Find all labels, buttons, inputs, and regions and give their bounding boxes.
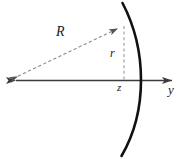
mirror-surface-arc [122, 3, 142, 156]
radius-vector-line [18, 28, 118, 76]
mirror-arc-path [122, 3, 142, 156]
figure-canvas [0, 0, 190, 159]
label-sagitta-z: z [117, 82, 121, 93]
mirror-geometry-figure: R r z y [0, 0, 190, 159]
label-axis-y: y [168, 83, 174, 96]
label-height-r: r [110, 47, 115, 59]
label-radius-R: R [56, 25, 65, 39]
radius-vector-R [18, 28, 118, 76]
